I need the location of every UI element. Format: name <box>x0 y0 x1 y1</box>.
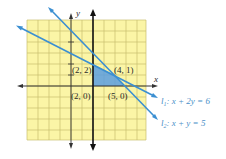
point-label-2-0: (2, 0) <box>71 91 91 101</box>
x-axis-label: x <box>153 74 158 84</box>
y-axis-label: y <box>75 8 80 18</box>
point-label-2-2: (2, 2) <box>72 65 92 75</box>
legend-l2: l2: x + y = 5 <box>161 118 206 129</box>
legend-l1: l1: x + 2y = 6 <box>161 96 210 107</box>
point-label-5-0: (5, 0) <box>108 91 128 101</box>
graph: y x (2, 2) (4, 1) (2, 0) (5, 0) l1: x + … <box>0 0 226 159</box>
point-label-4-1: (4, 1) <box>114 65 134 75</box>
grid-background <box>27 20 146 140</box>
